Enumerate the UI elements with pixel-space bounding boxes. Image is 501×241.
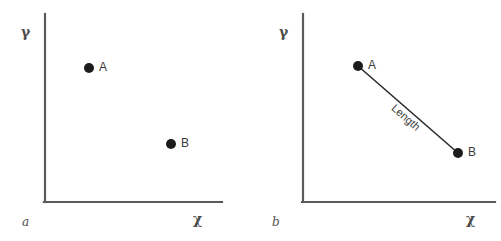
axes-group-a bbox=[44, 14, 222, 202]
y-axis-label: γ bbox=[279, 25, 288, 39]
point-b-label: B bbox=[468, 146, 476, 158]
y-axis-label: γ bbox=[21, 25, 30, 39]
length-segment-line bbox=[358, 66, 458, 153]
panel-b: γ χ A B Length b bbox=[250, 0, 500, 241]
panel-a: γ χ A B a bbox=[0, 0, 250, 241]
x-axis-label: χ bbox=[193, 212, 202, 226]
point-a bbox=[353, 61, 363, 71]
data-points-a bbox=[84, 63, 176, 149]
x-axis-label: χ bbox=[466, 212, 475, 226]
point-a-label: A bbox=[99, 61, 107, 73]
point-a-label: A bbox=[368, 59, 376, 71]
panel-letter-a: a bbox=[22, 216, 29, 228]
panel-letter-b: b bbox=[272, 216, 280, 228]
point-b bbox=[453, 148, 463, 158]
point-a bbox=[84, 63, 94, 73]
point-b bbox=[166, 139, 176, 149]
point-b-label: B bbox=[181, 137, 189, 149]
figure-root: γ χ A B a γ χ A B Length b bbox=[0, 0, 501, 241]
connector-group-b bbox=[358, 66, 458, 153]
panel-a-canvas bbox=[0, 0, 250, 241]
